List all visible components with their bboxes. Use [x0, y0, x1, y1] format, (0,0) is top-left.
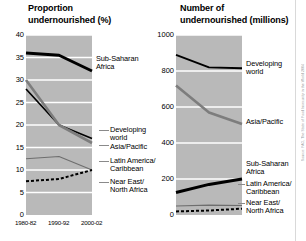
x-tick-label: 1990-92: [48, 219, 69, 226]
figure-root: Proportion undernourished (%) 0510152025…: [0, 0, 306, 241]
series-line: [176, 209, 242, 212]
series-lines-proportion: [26, 35, 92, 215]
series-callout-label: Near East/ North Africa: [110, 178, 147, 194]
series-line: [26, 53, 92, 71]
plot-area-proportion: [26, 35, 92, 215]
x-axis-proportion: 1980-821990-922000-02: [10, 219, 120, 229]
leader-line: [99, 145, 109, 146]
plot-area-number: [176, 35, 242, 215]
y-tick-label: 15: [16, 144, 24, 152]
y-tick-label: 0: [170, 211, 174, 219]
series-line: [26, 170, 92, 181]
y-tick-label: 5: [20, 189, 24, 197]
series-callout-label: Developing world: [246, 60, 282, 76]
series-line: [176, 85, 242, 124]
y-tick-label: 200: [161, 175, 174, 183]
x-axis-number: 1980-821990-922000-02: [160, 219, 270, 229]
y-tick-label: 0: [20, 211, 24, 219]
series-callout-label: Sub-Saharan Africa: [96, 55, 138, 71]
series-callout-label: Near East/ North Africa: [246, 199, 283, 215]
leader-line: [99, 161, 109, 162]
series-line: [176, 55, 242, 69]
series-line: [26, 89, 92, 139]
leader-line: [238, 203, 245, 204]
y-axis-proportion: 0510152025303540: [0, 35, 24, 215]
chart-panel-proportion: Proportion undernourished (%) 0510152025…: [0, 0, 152, 241]
y-axis-number: 02004006008001000: [150, 35, 174, 215]
series-callout-label: Developing world: [110, 126, 146, 142]
leader-line: [99, 130, 109, 131]
source-credit: Source: FAO, The State of Food Insecurit…: [301, 64, 305, 161]
y-tick-label: 10: [16, 166, 24, 174]
x-tick-label: 2000-02: [81, 219, 102, 226]
series-lines-number: [176, 35, 242, 215]
right-divider-rule: [295, 0, 296, 241]
series-callout-label: Latin America/ Caribbean: [110, 157, 155, 173]
series-callout-label: Latin America/ Caribbean: [246, 180, 291, 196]
chart-title-number: Number of undernourished (millions): [180, 3, 305, 26]
y-tick-label: 35: [16, 54, 24, 62]
y-tick-label: 40: [16, 31, 24, 39]
y-tick-label: 400: [161, 139, 174, 147]
series-line: [176, 205, 242, 206]
y-tick-label: 1000: [157, 31, 174, 39]
leader-line: [99, 182, 109, 183]
series-callout-label: Sub-Saharan Africa: [246, 160, 288, 176]
x-tick-label: 1980-82: [15, 219, 36, 226]
y-tick-label: 25: [16, 99, 24, 107]
y-tick-label: 600: [161, 103, 174, 111]
leader-line: [238, 184, 245, 185]
y-tick-label: 800: [161, 67, 174, 75]
series-callout-label: Asia/Pacific: [246, 118, 283, 126]
chart-title-proportion: Proportion undernourished (%): [28, 3, 153, 26]
y-tick-label: 30: [16, 76, 24, 84]
series-callout-label: Asia/Pacific: [110, 143, 147, 151]
series-line: [176, 179, 242, 193]
y-tick-label: 20: [16, 121, 24, 129]
series-line: [26, 157, 92, 171]
